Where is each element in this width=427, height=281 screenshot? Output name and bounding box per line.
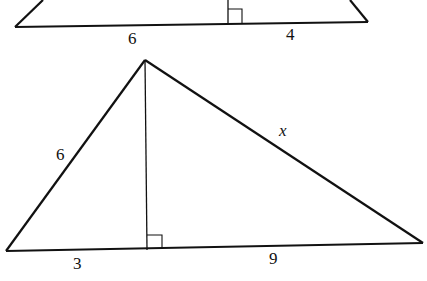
- upper-triangle: 6 4: [15, 0, 368, 48]
- upper-base-right-label: 4: [286, 25, 295, 44]
- lower-base-right-label: 9: [269, 249, 278, 268]
- lower-right-side: [145, 60, 423, 243]
- lower-base-left-label: 3: [73, 254, 82, 273]
- lower-altitude: [145, 60, 147, 250]
- upper-right-angle-marker: [228, 9, 242, 23]
- lower-base: [6, 243, 423, 251]
- triangle-diagram: 6 4 6 x 3 9: [0, 0, 427, 281]
- lower-left-side: [6, 60, 145, 251]
- lower-right-side-label: x: [278, 121, 287, 140]
- lower-right-angle-marker: [147, 235, 162, 249]
- upper-base: [15, 22, 368, 27]
- upper-right-side: [350, 0, 368, 22]
- upper-base-left-label: 6: [128, 29, 137, 48]
- lower-triangle: 6 x 3 9: [6, 60, 423, 273]
- lower-left-side-label: 6: [56, 145, 65, 164]
- upper-left-side: [15, 0, 43, 27]
